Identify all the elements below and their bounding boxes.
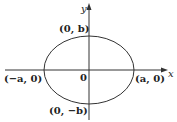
y-axis-arrow-icon [87,3,92,10]
ellipse-graphic [0,0,177,122]
y-axis-label: y [81,4,87,14]
point-left-label: (−a, 0) [4,74,42,84]
origin-label: 0 [80,73,87,83]
x-axis-label: x [168,69,174,79]
point-right-label: (a, 0) [135,74,165,84]
x-axis-arrow-icon [161,68,168,73]
point-top-label: (0, b) [59,24,89,34]
ellipse-diagram: y x 0 (0, b) (0, −b) (−a, 0) (a, 0) [0,0,177,122]
point-bottom-label: (0, −b) [49,106,88,116]
